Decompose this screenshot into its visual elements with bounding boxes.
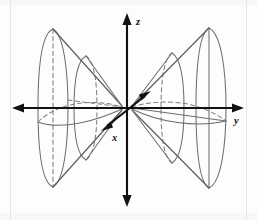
z-axis-arrow-down [122, 195, 131, 207]
left-slant-upper-outer [53, 29, 122, 106]
right-slant-lower-inner [132, 110, 172, 163]
right-slant-upper-inner [132, 53, 172, 106]
x-axis-label: x [111, 132, 117, 143]
cone-diagram-svg: z y x [0, 0, 257, 220]
left-horizontal-trace-back [38, 102, 122, 122]
z-axis-label: z [135, 16, 141, 27]
left-slant-hidden-upper [68, 100, 122, 107]
y-axis-label: y [232, 115, 239, 126]
z-axis-arrow-up [122, 13, 131, 25]
right-horizontal-trace-front [132, 109, 226, 124]
y-axis-arrow-right [232, 104, 244, 113]
cone-figure-canvas: z y x [0, 0, 257, 220]
right-horizontal-trace-back [132, 102, 226, 121]
left-slant-upper-inner [86, 56, 122, 106]
y-axis-arrow-left [12, 104, 24, 113]
